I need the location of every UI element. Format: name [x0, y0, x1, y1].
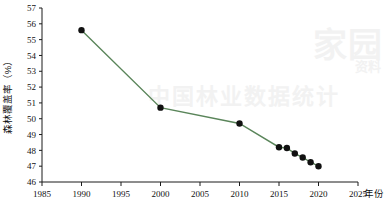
x-tick-label: 2005: [191, 189, 210, 199]
y-tick-label: 53: [27, 66, 37, 76]
y-tick-label: 49: [27, 130, 37, 140]
x-tick-label: 1990: [73, 189, 92, 199]
data-point: [78, 27, 84, 33]
x-axis-title: 年份: [364, 188, 384, 199]
x-tick-label: 2000: [152, 189, 171, 199]
data-point: [284, 145, 290, 151]
data-point: [315, 163, 321, 169]
y-tick-label: 51: [27, 98, 36, 108]
data-point: [307, 159, 313, 165]
x-tick-label: 2020: [310, 189, 329, 199]
y-tick-label: 57: [27, 3, 37, 13]
y-tick-label: 54: [27, 51, 37, 61]
x-tick-label: 2010: [231, 189, 250, 199]
x-tick-label: 1985: [33, 189, 52, 199]
x-tick-labels: 198519901995200020052010201520202025: [33, 189, 368, 199]
y-tick-label: 52: [27, 82, 36, 92]
data-point: [157, 104, 163, 110]
y-axis-title: 森林覆盖率（%）: [2, 56, 13, 134]
plot-area: 464748495051525354555657 198519901995200…: [0, 0, 387, 220]
y-tick-label: 47: [27, 161, 37, 171]
data-point: [236, 120, 242, 126]
x-tick-label: 2015: [270, 189, 289, 199]
y-tick-label: 55: [27, 35, 37, 45]
data-series: [78, 27, 321, 169]
data-point: [300, 154, 306, 160]
y-tick-label: 56: [27, 19, 37, 29]
y-tick-label: 46: [27, 177, 37, 187]
data-point: [292, 150, 298, 156]
y-tick-labels: 464748495051525354555657: [27, 3, 37, 187]
series-line: [82, 30, 319, 166]
forest-coverage-chart: 家园 中国林业数据统计 资料 464748495051525354555657 …: [0, 0, 387, 220]
data-point: [276, 144, 282, 150]
y-tick-label: 50: [27, 114, 37, 124]
x-tick-label: 1995: [112, 189, 131, 199]
y-tick-label: 48: [27, 146, 37, 156]
